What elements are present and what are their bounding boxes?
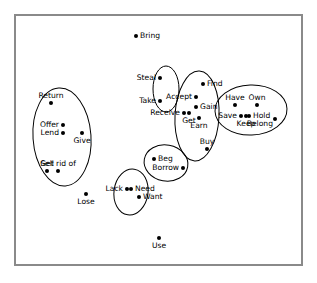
data-point-beg[interactable] — [152, 157, 156, 161]
data-point-return[interactable] — [49, 101, 53, 105]
cluster-ellipse-possess-cluster — [214, 84, 288, 136]
point-label-earn: Earn — [190, 122, 207, 130]
data-point-get-rid-of[interactable] — [56, 169, 60, 173]
data-point-sell[interactable] — [45, 169, 49, 173]
point-label-bring: Bring — [140, 32, 160, 40]
point-label-receive: Receive — [150, 109, 180, 117]
point-label-get-rid-of: Get rid of — [40, 160, 76, 168]
data-point-earn[interactable] — [197, 116, 201, 120]
point-label-own: Own — [248, 94, 265, 102]
data-point-want[interactable] — [137, 195, 141, 199]
data-point-give[interactable] — [80, 131, 84, 135]
data-point-need[interactable] — [129, 187, 133, 191]
data-point-find[interactable] — [201, 82, 205, 86]
data-point-offer[interactable] — [61, 123, 65, 127]
data-point-have[interactable] — [233, 103, 237, 107]
point-label-use: Use — [152, 242, 166, 250]
point-label-take: Take — [139, 97, 156, 105]
scatter-plot-canvas: BringStealTakeReturnOfferLendGiveSellGet… — [0, 0, 317, 283]
data-point-accept[interactable] — [194, 95, 198, 99]
point-label-beg: Beg — [158, 155, 173, 163]
data-point-save[interactable] — [239, 114, 243, 118]
point-label-belong: Belong — [247, 120, 273, 128]
data-point-borrow[interactable] — [181, 166, 185, 170]
data-point-own[interactable] — [255, 103, 259, 107]
data-point-lend[interactable] — [61, 131, 65, 135]
point-label-accept: Accept — [166, 93, 192, 101]
data-point-buy[interactable] — [205, 147, 209, 151]
data-point-take[interactable] — [158, 99, 162, 103]
point-label-return: Return — [38, 92, 63, 100]
point-label-give: Give — [73, 137, 90, 145]
data-point-hold[interactable] — [247, 114, 251, 118]
data-point-receive[interactable] — [182, 111, 186, 115]
cluster-ellipse-steal-cluster — [153, 66, 179, 112]
point-label-find: Find — [207, 80, 223, 88]
data-point-use[interactable] — [157, 236, 161, 240]
data-point-lose[interactable] — [84, 192, 88, 196]
point-label-save: Save — [218, 112, 237, 120]
point-label-buy: Buy — [200, 138, 215, 146]
point-label-have: Have — [225, 94, 245, 102]
data-point-gain[interactable] — [194, 105, 198, 109]
data-point-steal[interactable] — [158, 76, 162, 80]
point-label-lose: Lose — [77, 198, 94, 206]
point-label-steal: Steal — [137, 74, 156, 82]
data-point-belong[interactable] — [273, 117, 277, 121]
point-label-borrow: Borrow — [152, 164, 179, 172]
data-point-bring[interactable] — [134, 34, 138, 38]
point-label-lend: Lend — [41, 129, 59, 137]
point-label-lack: Lack — [106, 185, 123, 193]
data-point-get[interactable] — [187, 111, 191, 115]
point-label-want: Want — [143, 193, 162, 201]
point-label-gain: Gain — [200, 103, 217, 111]
